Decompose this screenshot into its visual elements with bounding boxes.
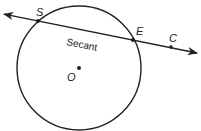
label-c: C bbox=[169, 32, 177, 44]
secant-label: Secant bbox=[66, 36, 99, 53]
label-o: O bbox=[67, 71, 76, 83]
label-s: S bbox=[36, 6, 44, 18]
secant-diagram: S E C O Secant bbox=[0, 0, 201, 131]
point-o-center bbox=[77, 66, 81, 70]
point-c bbox=[169, 45, 173, 49]
point-e bbox=[131, 38, 135, 42]
label-e: E bbox=[136, 25, 144, 37]
point-s bbox=[36, 19, 40, 23]
